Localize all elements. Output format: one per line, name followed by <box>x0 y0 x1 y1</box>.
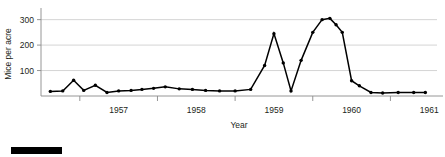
data-point <box>272 32 275 35</box>
data-point <box>117 89 120 92</box>
data-point <box>320 18 323 21</box>
data-point <box>72 79 75 82</box>
data-point <box>191 88 194 91</box>
y-tick-label-300: 300 <box>20 15 34 25</box>
data-point <box>129 89 132 92</box>
series-line-0 <box>50 18 425 93</box>
x-tick-label-1960: 1960 <box>342 105 361 115</box>
data-point <box>105 91 108 94</box>
x-tick-label-1959: 1959 <box>264 105 283 115</box>
data-point <box>204 89 207 92</box>
data-point <box>396 91 399 94</box>
x-axis-title: Year <box>230 120 247 130</box>
mice-per-acre-line-chart: 100200300Mice per acre195719581959196019… <box>0 0 445 157</box>
data-point <box>350 79 353 82</box>
data-point <box>341 31 344 34</box>
data-point <box>249 88 252 91</box>
x-tick-label-1958: 1958 <box>187 105 206 115</box>
x-tick-label-1957: 1957 <box>109 105 128 115</box>
data-point <box>311 31 314 34</box>
caption-redaction-bar <box>11 147 62 154</box>
data-point <box>289 89 292 92</box>
y-tick-label-100: 100 <box>20 66 34 76</box>
data-point <box>358 84 361 87</box>
data-point <box>334 23 337 26</box>
data-point <box>233 89 236 92</box>
data-point <box>152 87 155 90</box>
data-point <box>164 85 167 88</box>
data-point <box>381 91 384 94</box>
data-point <box>369 91 372 94</box>
figure-container: 100200300Mice per acre195719581959196019… <box>0 0 445 157</box>
data-point <box>178 87 181 90</box>
data-point <box>328 17 331 20</box>
data-point <box>94 84 97 87</box>
data-point <box>140 88 143 91</box>
data-point <box>82 89 85 92</box>
data-point <box>218 89 221 92</box>
y-tick-label-200: 200 <box>20 40 34 50</box>
data-point <box>263 64 266 67</box>
data-point <box>299 59 302 62</box>
x-tick-label-1961: 1961 <box>420 105 439 115</box>
y-axis-title: Mice per acre <box>3 28 13 80</box>
data-point <box>49 90 52 93</box>
data-point <box>412 91 415 94</box>
data-point <box>424 91 427 94</box>
data-point <box>61 89 64 92</box>
data-point <box>282 61 285 64</box>
